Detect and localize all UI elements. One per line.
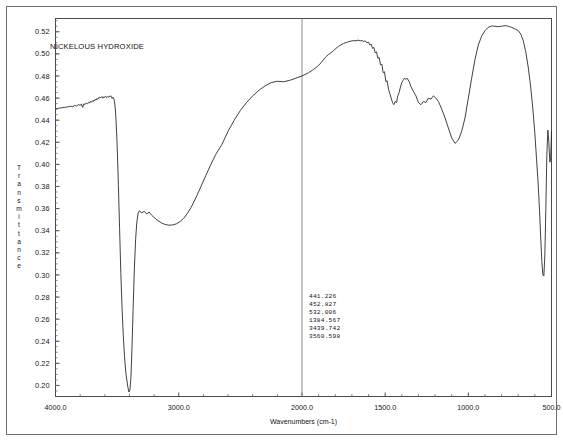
y-tick-label: 0.20 [35, 381, 49, 390]
y-axis-title-letter: n [17, 246, 21, 253]
y-tick-label: 0.34 [35, 226, 49, 235]
y-tick-label: 0.38 [35, 182, 49, 191]
y-tick-label: 0.28 [35, 293, 49, 302]
peak-list: 441.226452.827532.0061384.5673439.742356… [309, 293, 340, 340]
y-tick-label: 0.36 [35, 204, 49, 213]
peak-value: 3439.742 [309, 325, 340, 332]
y-axis-title-letter: a [17, 180, 21, 187]
peak-value: 532.006 [309, 309, 336, 316]
x-tick-label: 3000.0 [168, 403, 190, 412]
x-tick-label: 1000.0 [457, 403, 479, 412]
y-tick-label: 0.24 [35, 337, 49, 346]
ir-spectrum-svg: 0.200.220.240.260.280.300.320.340.360.38… [0, 0, 563, 441]
y-axis-title-letter: e [17, 262, 21, 269]
peak-value: 1384.567 [309, 317, 340, 324]
y-tick-label: 0.44 [35, 116, 49, 125]
y-axis-title-letter: a [17, 238, 21, 245]
y-tick-label: 0.48 [35, 72, 49, 81]
y-tick-label: 0.32 [35, 248, 49, 257]
chart-title: NICKELOUS HYDROXIDE [50, 42, 144, 51]
peak-value: 452.827 [309, 301, 336, 308]
y-tick-label: 0.40 [35, 160, 49, 169]
y-axis-title-letter: T [17, 164, 21, 171]
y-axis-title-letter: t [18, 221, 20, 228]
x-tick-label: 2000.0 [291, 403, 313, 412]
peak-value: 441.226 [309, 293, 336, 300]
y-tick-label: 0.42 [35, 138, 49, 147]
y-tick-label: 0.26 [35, 315, 49, 324]
y-tick-label: 0.46 [35, 94, 49, 103]
y-tick-label: 0.50 [35, 49, 49, 58]
spectrum-chart-page: 0.200.220.240.260.280.300.320.340.360.38… [0, 0, 563, 441]
y-axis-title-letter: m [16, 205, 22, 212]
y-tick-label: 0.52 [35, 27, 49, 36]
peak-value: 3560.598 [309, 333, 340, 340]
x-tick-label: 1500.0 [374, 403, 396, 412]
y-tick-label: 0.30 [35, 271, 49, 280]
y-axis-title-letter: t [18, 230, 20, 237]
y-axis-title-letter: n [17, 189, 21, 196]
x-tick-label: 4000.0 [45, 403, 67, 412]
x-tick-label: 500.0 [543, 403, 561, 412]
y-tick-label: 0.22 [35, 359, 49, 368]
x-axis-title: Wavenumbers (cm-1) [270, 418, 337, 426]
